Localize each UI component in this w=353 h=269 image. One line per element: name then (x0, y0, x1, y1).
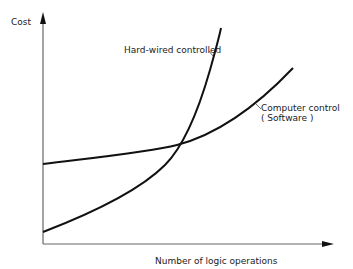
chart-canvas (0, 0, 353, 269)
y-axis-label: Cost (11, 17, 31, 28)
software-curve (43, 68, 293, 164)
x-axis-arrow-icon (322, 241, 334, 247)
y-axis-arrow-icon (40, 12, 46, 24)
hardwired-curve (43, 28, 221, 232)
hardwired-label: Hard-wired controlled (124, 45, 221, 56)
x-axis-label: Number of logic operations (155, 256, 277, 267)
software-label-line2: ( Software ) (261, 113, 313, 124)
